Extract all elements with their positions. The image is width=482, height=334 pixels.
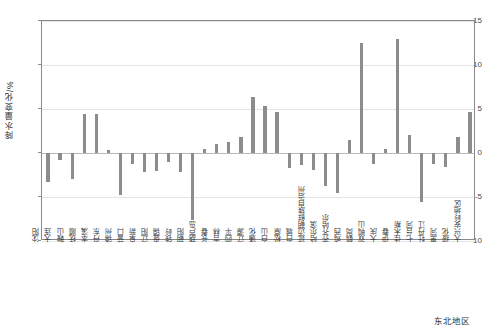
bar xyxy=(444,153,447,167)
x-tick-label: 哈尔滨 xyxy=(309,221,317,242)
x-tick-label: 辽阳 xyxy=(141,228,149,242)
bar xyxy=(167,153,170,162)
bar xyxy=(155,153,158,171)
bar xyxy=(324,153,327,186)
x-tick-label: 吉林 xyxy=(213,228,221,242)
x-tick-label: 延边朝鲜族自治州 xyxy=(297,186,305,242)
bar xyxy=(432,153,435,164)
bar xyxy=(396,39,399,153)
bar xyxy=(384,149,387,153)
x-axis-title: 东北地区 xyxy=(434,314,470,326)
bar xyxy=(348,140,351,153)
x-tick-label: 大连 xyxy=(44,228,52,242)
x-tick-label: 抚顺 xyxy=(68,228,76,242)
x-tick-label: 本溪 xyxy=(80,228,88,242)
bar xyxy=(58,153,61,160)
bar xyxy=(215,144,218,153)
plot-area xyxy=(41,20,475,240)
bar xyxy=(227,142,230,153)
y-axis-title-text: 降水量变化/% xyxy=(4,81,16,139)
bar xyxy=(239,137,242,153)
x-tick-label: 鞍山 xyxy=(56,228,64,242)
bar xyxy=(251,97,254,153)
x-tick-label: 大庆 xyxy=(370,228,378,242)
x-tick-label: 沈阳 xyxy=(32,228,40,242)
x-tick-label: 双鸭山 xyxy=(358,221,366,242)
bar xyxy=(360,43,363,153)
x-tick-label: 松原 xyxy=(273,228,281,242)
bar xyxy=(71,153,74,179)
x-tick-label: 四平 xyxy=(225,228,233,242)
bar xyxy=(131,153,134,164)
x-tick-label: 白山 xyxy=(261,228,269,242)
precipitation-change-bar-chart: 降水量变化/% -10-5051015 沈阳大连鞍山抚顺本溪丹东锦州营口阜新辽阳… xyxy=(0,0,482,334)
x-tick-label: 七台河 xyxy=(406,221,414,242)
x-tick-label: 佳木斯 xyxy=(394,221,402,242)
bar xyxy=(372,153,375,164)
bar xyxy=(46,153,49,182)
bar xyxy=(456,137,459,153)
bar xyxy=(179,153,182,172)
x-tick-label: 辽源 xyxy=(237,228,245,242)
bar xyxy=(95,114,98,153)
x-tick-label: 鹤岗 xyxy=(345,228,353,242)
x-tick-label: 营口 xyxy=(116,228,124,242)
bar xyxy=(143,153,146,172)
x-tick-label: 葫芦岛 xyxy=(189,221,197,242)
bar xyxy=(191,153,194,220)
bar-series xyxy=(42,21,474,239)
bar xyxy=(300,153,303,165)
x-tick-label: 锦州 xyxy=(104,228,112,242)
x-tick-label: 长春 xyxy=(201,228,209,242)
x-tick-label: 盘锦 xyxy=(153,228,161,242)
x-tick-label: 黑河 xyxy=(430,228,438,242)
x-tick-label: 通化 xyxy=(249,228,257,242)
x-tick-label: 朝阳 xyxy=(177,228,185,242)
bar xyxy=(420,153,423,202)
y-axis-title: 降水量变化/% xyxy=(2,0,18,220)
bar xyxy=(468,112,471,153)
x-axis-tick-labels: 沈阳大连鞍山抚顺本溪丹东锦州营口阜新辽阳盘锦铁岭朝阳葫芦岛长春吉林四平辽源通化白… xyxy=(41,242,475,304)
bar xyxy=(408,135,411,153)
x-tick-label: 大兴安岭地区 xyxy=(454,200,462,242)
bar xyxy=(312,153,315,170)
bar xyxy=(83,114,86,153)
x-tick-label: 阜新 xyxy=(128,228,136,242)
x-tick-label: 伊春 xyxy=(382,228,390,242)
bar xyxy=(263,106,266,153)
bar xyxy=(336,153,339,193)
x-tick-label: 丹东 xyxy=(92,228,100,242)
x-tick-label: 白城 xyxy=(285,228,293,242)
bar xyxy=(275,112,278,153)
bar xyxy=(288,153,291,168)
bar xyxy=(119,153,122,195)
x-tick-label: 牡丹江 xyxy=(418,221,426,242)
bar xyxy=(203,149,206,153)
x-tick-label: 绥化 xyxy=(442,228,450,242)
x-tick-label: 鸡西 xyxy=(333,228,341,242)
x-tick-label: 铁岭 xyxy=(165,228,173,242)
x-tick-label: 齐齐哈尔 xyxy=(321,214,329,242)
bar xyxy=(107,150,110,153)
